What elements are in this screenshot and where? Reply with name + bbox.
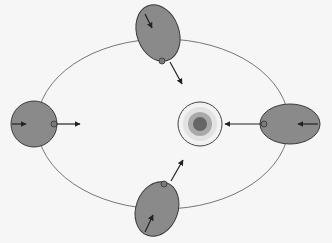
orbit-diagram xyxy=(0,0,332,243)
marker-dot xyxy=(261,121,267,127)
central-planet xyxy=(178,102,222,146)
marker-dot xyxy=(161,181,167,187)
marker-dot xyxy=(159,58,165,64)
marker-dot xyxy=(51,121,57,127)
